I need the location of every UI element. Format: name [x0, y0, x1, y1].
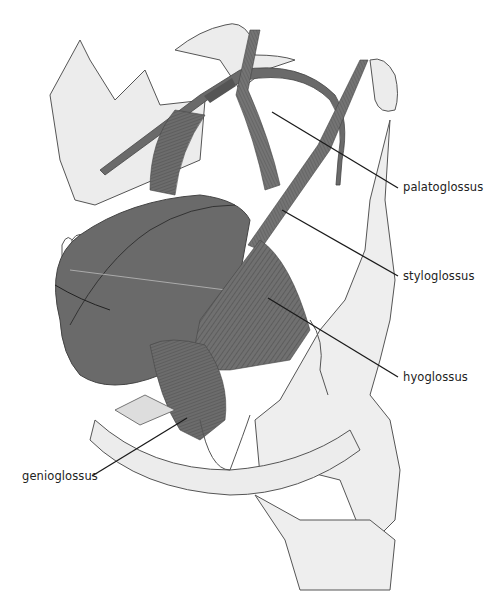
label-styloglossus: styloglossus [403, 269, 475, 283]
tongue-muscles-illustration [0, 0, 493, 604]
label-hyoglossus: hyoglossus [403, 370, 468, 384]
label-palatoglossus: palatoglossus [403, 180, 483, 194]
label-genioglossus: genioglossus [22, 469, 98, 483]
